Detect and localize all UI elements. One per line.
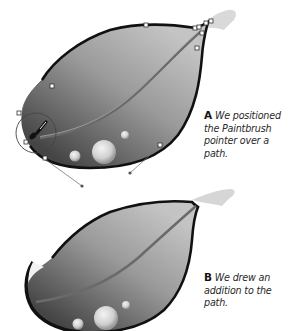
caption-b-line-1: We drew an — [215, 272, 270, 283]
water-drop-small-a — [70, 151, 81, 162]
caption-b-line-2: addition to the — [204, 285, 272, 296]
caption-b: BWe drew an addition to the path. — [204, 271, 289, 310]
caption-a-line-1: We positioned — [215, 110, 281, 121]
caption-a-letter: A — [204, 109, 212, 121]
tutorial-figure: AWe positioned the Paintbrush pointer ov… — [0, 0, 289, 331]
caption-a-line-2: the Paintbrush — [204, 123, 271, 134]
leaf-body-a — [21, 22, 208, 168]
caption-a-line-3: pointer over a path. — [204, 135, 269, 159]
water-drop-tiny-b — [122, 301, 130, 309]
caption-a: AWe positioned the Paintbrush pointer ov… — [204, 109, 289, 160]
leaf-a — [16, 10, 236, 188]
water-drop-large-b — [94, 306, 118, 330]
caption-b-letter: B — [204, 271, 212, 283]
water-drop-small-b — [73, 319, 84, 330]
stem-b — [192, 189, 235, 206]
water-drop-tiny-a — [121, 131, 129, 139]
caption-b-line-3: path. — [204, 297, 228, 308]
water-drop-large-a — [92, 140, 116, 164]
leaf-b — [26, 189, 234, 331]
